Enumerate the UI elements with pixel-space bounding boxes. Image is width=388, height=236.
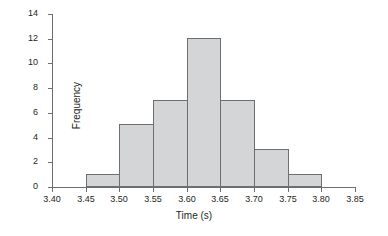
- y-tick-label: 14: [28, 9, 44, 18]
- y-tick-label: 10: [28, 58, 44, 67]
- histogram-bar: [187, 38, 222, 187]
- histogram-bar: [220, 100, 255, 188]
- histogram-bar: [153, 100, 188, 188]
- y-axis-title-holder: Frequency: [60, 14, 61, 15]
- x-tick-mark: [153, 188, 154, 192]
- x-tick-mark: [86, 188, 87, 192]
- x-tick-mark: [119, 188, 120, 192]
- x-tick-mark: [288, 188, 289, 192]
- y-tick-label-wrap: 12: [0, 39, 44, 40]
- x-tick-mark: [321, 188, 322, 192]
- x-axis-line: [52, 187, 356, 188]
- y-tick-label: 6: [33, 108, 44, 117]
- histogram-bar: [119, 124, 154, 187]
- y-tick-label-wrap: 0: [0, 187, 44, 188]
- x-tick-mark: [254, 188, 255, 192]
- y-tick-label: 12: [28, 34, 44, 43]
- x-tick-mark: [355, 188, 356, 192]
- x-axis-title: Time (s): [0, 210, 388, 221]
- histogram-bar: [288, 174, 323, 187]
- y-tick-label: 8: [33, 83, 44, 92]
- y-tick-label: 2: [33, 157, 44, 166]
- x-tick-label: 3.85: [335, 194, 375, 204]
- y-tick-label-wrap: 14: [0, 14, 44, 15]
- histogram-bars: [52, 14, 355, 187]
- x-tick-mark: [52, 188, 53, 192]
- y-tick-label-wrap: 2: [0, 162, 44, 163]
- y-tick-label: 0: [33, 182, 44, 191]
- histogram-figure: 02468101214 3.403.453.503.553.603.653.70…: [0, 0, 388, 236]
- y-tick-label-wrap: 10: [0, 63, 44, 64]
- y-tick-label-wrap: 8: [0, 88, 44, 89]
- x-tick-mark: [187, 188, 188, 192]
- y-axis-title: Frequency: [71, 46, 82, 166]
- y-tick-label: 4: [33, 133, 44, 142]
- y-tick-label-wrap: 6: [0, 113, 44, 114]
- x-tick-mark: [220, 188, 221, 192]
- y-tick-label-wrap: 4: [0, 138, 44, 139]
- histogram-bar: [254, 149, 289, 187]
- histogram-bar: [86, 174, 121, 187]
